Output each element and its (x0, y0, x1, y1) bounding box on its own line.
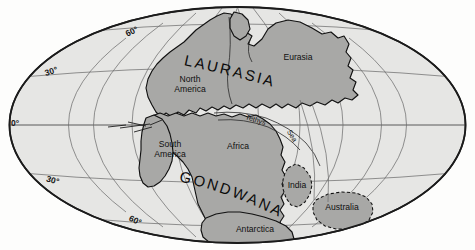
continent-label-eurasia: Eurasia (283, 52, 312, 62)
continent-label-antarctica: Antarctica (236, 224, 274, 234)
pangaea-map-figure: 60° 30° 0° 30° 60° LAURASIA GONDWANA Nor… (0, 0, 475, 250)
continent-label-north-america-line2: America (174, 84, 206, 94)
continent-label-south-america-line2: America (154, 149, 186, 159)
continent-label-india: India (288, 180, 307, 190)
continent-label-africa: Africa (227, 141, 249, 151)
continent-label-australia: Australia (325, 202, 359, 212)
map-canvas: 60° 30° 0° 30° 60° LAURASIA GONDWANA Nor… (0, 0, 475, 250)
continent-label-north-america: North (179, 74, 200, 84)
lat-label-0-equator: 0° (11, 118, 20, 128)
continent-label-south-america: South (159, 139, 182, 149)
